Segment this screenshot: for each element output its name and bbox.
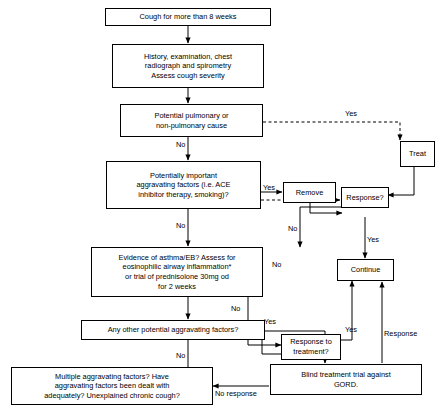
flowchart-canvas: Cough for more than 8 weeks History, exa… <box>0 0 444 413</box>
edge-label-no-5: Yes <box>264 318 276 327</box>
node-aggravating-factors-label: Potentially important aggravating factor… <box>136 171 230 200</box>
edge-label-yes-5: Yes <box>345 326 357 335</box>
node-gord-trial-label: Blind treatment trial against GORD. <box>301 370 391 389</box>
edge-label-yes-2: Yes <box>263 184 275 193</box>
node-other-factors-label: Any other potential aggravating factors? <box>108 325 239 335</box>
edge-label-no-2: No <box>176 222 185 231</box>
node-history[interactable]: History, examination, chest radiograph a… <box>112 44 264 88</box>
node-response-1-label: Response? <box>346 193 383 203</box>
node-treat[interactable]: Treat <box>400 141 435 167</box>
node-treat-label: Treat <box>409 149 426 159</box>
node-asthma-eb[interactable]: Evidence of asthma/EB? Assess for eosino… <box>91 247 263 297</box>
node-response-to-treatment-label: Response to treatment? <box>290 337 332 356</box>
edge-label-no-response: No response <box>215 390 257 399</box>
edge-label-yes-4: No <box>231 305 240 314</box>
node-start[interactable]: Cough for more than 8 weeks <box>105 8 271 26</box>
edge-label-no-1: No <box>176 141 185 150</box>
node-response-to-treatment[interactable]: Response to treatment? <box>281 334 341 360</box>
node-start-label: Cough for more than 8 weeks <box>140 12 237 22</box>
node-continue-label: Continue <box>351 265 381 275</box>
node-gord-trial[interactable]: Blind treatment trial against GORD. <box>270 364 422 395</box>
node-potential-cause-label: Potential pulmonary or non-pulmonary cau… <box>155 111 229 130</box>
node-asthma-eb-label: Evidence of asthma/EB? Assess for eosino… <box>118 253 235 291</box>
node-potential-cause[interactable]: Potential pulmonary or non-pulmonary cau… <box>120 104 263 137</box>
node-remove-label: Remove <box>296 188 324 198</box>
node-multiple-factors-label: Multiple aggravating factors? Have aggra… <box>44 372 180 401</box>
edge-label-no-6: No <box>176 352 185 361</box>
node-aggravating-factors[interactable]: Potentially important aggravating factor… <box>106 161 261 209</box>
node-other-factors[interactable]: Any other potential aggravating factors? <box>81 320 265 340</box>
node-history-label: History, examination, chest radiograph a… <box>144 52 232 81</box>
edge-label-yes-1: Yes <box>345 110 357 119</box>
node-continue[interactable]: Continue <box>337 259 394 281</box>
node-multiple-factors[interactable]: Multiple aggravating factors? Have aggra… <box>11 367 213 405</box>
node-remove[interactable]: Remove <box>283 182 336 203</box>
edge-label-yes-3: Yes <box>367 236 379 245</box>
edge-label-no-4: No <box>272 261 281 270</box>
edge-label-no-3: No <box>288 225 297 234</box>
node-response-1[interactable]: Response? <box>341 187 389 208</box>
edge-label-response: Response <box>384 330 417 339</box>
